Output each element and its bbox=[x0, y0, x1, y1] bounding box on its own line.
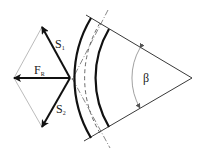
label-s1: S1 bbox=[55, 37, 65, 51]
force-diagram: S1 FR S2 β bbox=[0, 0, 203, 156]
label-beta: β bbox=[143, 71, 149, 85]
belt-inner-arc bbox=[96, 29, 109, 127]
force-s1-arrow bbox=[42, 27, 70, 78]
label-s2: S2 bbox=[56, 102, 66, 116]
label-fr: FR bbox=[34, 63, 45, 77]
construction-line-lower bbox=[14, 78, 42, 127]
belt-outer-arc bbox=[74, 18, 91, 138]
belt-pitch-arc bbox=[85, 23, 100, 133]
angle-beta-arc bbox=[132, 48, 140, 108]
